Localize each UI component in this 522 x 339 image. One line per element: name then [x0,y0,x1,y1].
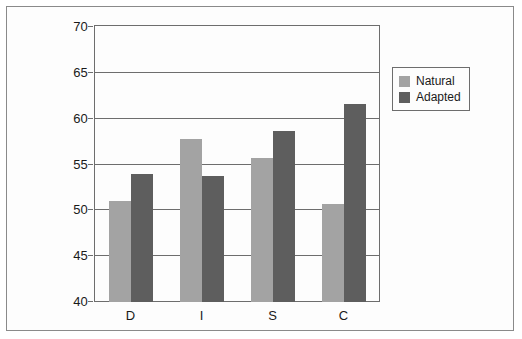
y-tick-mark-70 [88,26,93,27]
plot-wrapper: 40455055606570 DISC NaturalAdapted [7,7,513,330]
x-tick-label-S: S [268,308,277,323]
bar-S-adapted [273,131,295,302]
bar-S-natural [251,158,273,302]
y-tick-label-45: 45 [73,248,88,263]
bar-group-C [322,26,366,302]
x-tick-label-I: I [200,308,204,323]
y-tick-label-60: 60 [73,110,88,125]
x-axis: DISC [95,306,379,328]
bar-group-I [180,26,224,302]
y-tick-label-40: 40 [73,294,88,309]
legend-label-natural: Natural [416,75,455,87]
bar-group-D [109,26,153,302]
bar-I-adapted [202,176,224,303]
legend-swatch-adapted-icon [399,92,410,103]
y-tick-mark-55 [88,164,93,165]
legend-item-adapted: Adapted [399,89,461,105]
legend-swatch-natural-icon [399,76,410,87]
y-tick-mark-45 [88,255,93,256]
bar-D-adapted [131,174,153,302]
legend-label-adapted: Adapted [416,91,461,103]
bars-layer [95,26,379,302]
y-tick-mark-60 [88,118,93,119]
bar-C-natural [322,204,344,302]
bar-C-adapted [344,104,366,302]
bar-I-natural [180,139,202,302]
chart-legend: NaturalAdapted [392,67,470,111]
y-tick-mark-40 [88,301,93,302]
chart-frame: 40455055606570 DISC NaturalAdapted [6,6,514,331]
bar-D-natural [109,201,131,302]
y-tick-mark-50 [88,209,93,210]
y-axis: 40455055606570 [37,25,88,302]
y-tick-label-65: 65 [73,64,88,79]
y-tick-label-55: 55 [73,156,88,171]
x-tick-label-D: D [126,308,135,323]
x-tick-label-C: C [339,308,348,323]
y-tick-label-70: 70 [73,19,88,34]
y-tick-mark-65 [88,72,93,73]
y-tick-label-50: 50 [73,202,88,217]
bar-group-S [251,26,295,302]
legend-item-natural: Natural [399,73,461,89]
